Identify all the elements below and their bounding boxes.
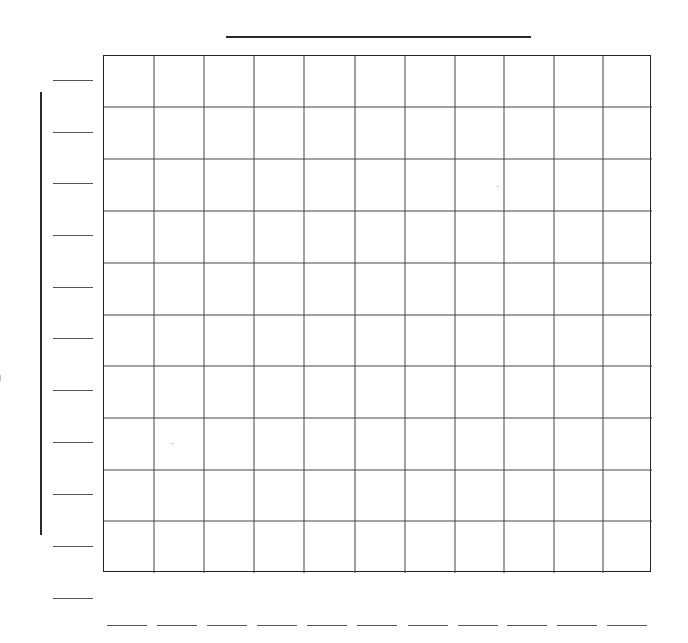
y-tick-blank[interactable] (53, 287, 93, 288)
title-blank-line[interactable] (226, 36, 531, 38)
grid-lines (104, 56, 652, 573)
y-tick-blank[interactable] (53, 338, 93, 339)
x-category-blank[interactable] (307, 625, 347, 626)
y-tick-blank[interactable] (53, 546, 93, 547)
y-tick-blank[interactable] (53, 442, 93, 443)
scan-speck (172, 443, 173, 444)
y-tick-blank[interactable] (53, 80, 93, 81)
y-tick-blank[interactable] (53, 235, 93, 236)
x-category-blank[interactable] (257, 625, 297, 626)
y-tick-blank[interactable] (53, 598, 93, 599)
scan-speck (497, 186, 498, 187)
y-tick-blank[interactable] (53, 390, 93, 391)
x-category-blank[interactable] (207, 625, 247, 626)
x-category-blank[interactable] (557, 625, 597, 626)
x-category-blank[interactable] (507, 625, 547, 626)
x-category-blank[interactable] (607, 625, 647, 626)
graph-grid[interactable] (103, 55, 651, 572)
x-category-blank[interactable] (157, 625, 197, 626)
x-category-blank[interactable] (408, 625, 448, 626)
scan-speck (0, 375, 1, 381)
x-category-blank[interactable] (357, 625, 397, 626)
x-category-blank[interactable] (107, 625, 147, 626)
y-axis-label-blank-line[interactable] (40, 92, 42, 535)
y-tick-blank[interactable] (53, 494, 93, 495)
y-tick-blank[interactable] (53, 132, 93, 133)
x-category-blank[interactable] (458, 625, 498, 626)
y-tick-blank[interactable] (53, 183, 93, 184)
